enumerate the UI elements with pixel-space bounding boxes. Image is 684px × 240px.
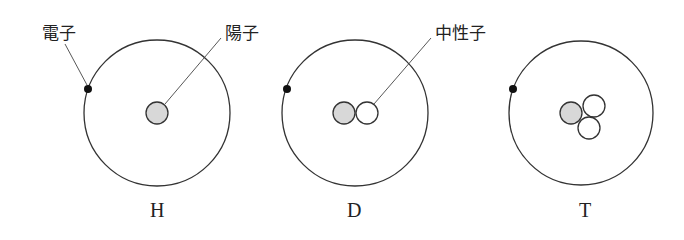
electron	[509, 85, 517, 93]
electron-label: 電子	[42, 25, 76, 42]
proton	[146, 102, 168, 124]
symbol-h: H	[150, 200, 164, 220]
neutron-label: 中性子	[435, 25, 486, 42]
neutron	[583, 95, 605, 117]
symbol-d: D	[347, 200, 361, 220]
proton-leader	[165, 38, 221, 104]
proton-label: 陽子	[225, 25, 259, 42]
atom-t	[509, 41, 653, 185]
proton	[560, 102, 582, 124]
proton	[333, 102, 355, 124]
electron	[84, 85, 92, 93]
atom-h	[65, 38, 230, 186]
electron	[283, 85, 291, 93]
electron-leader	[65, 44, 87, 85]
neutron	[356, 102, 378, 124]
neutron	[578, 117, 600, 139]
neutron-leader	[374, 38, 431, 104]
atom-d	[282, 38, 431, 186]
symbol-t: T	[579, 200, 591, 220]
